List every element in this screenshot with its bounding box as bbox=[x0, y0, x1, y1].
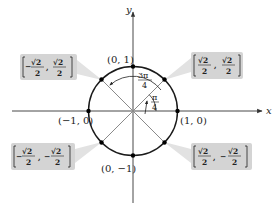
q4-x-den: 2 bbox=[202, 158, 207, 167]
angle-arc-3pi-over-4 bbox=[110, 76, 161, 90]
label-box-q1: √2 2 , √2 2 bbox=[191, 52, 243, 79]
label-0-neg1: (0, −1) bbox=[101, 163, 136, 174]
q3-x-num: √2 bbox=[22, 147, 32, 156]
label-box-q3: − √2 2 , − √2 2 bbox=[11, 143, 75, 170]
label-1-0: (1, 0) bbox=[180, 115, 207, 126]
angle-label-pi-over-4: π 4 bbox=[151, 93, 159, 112]
q1-y-den: 2 bbox=[226, 67, 231, 76]
q3-x-den: 2 bbox=[26, 158, 31, 167]
angle-pi4-denominator: 4 bbox=[152, 103, 157, 112]
q1-y-num: √2 bbox=[222, 56, 232, 65]
point-0-neg1 bbox=[131, 153, 135, 157]
y-axis-label: y bbox=[125, 4, 132, 15]
connector-q1 bbox=[164, 58, 191, 80]
angle-arc-pi-over-4-arrow bbox=[145, 101, 147, 114]
q1-comma: , bbox=[214, 61, 217, 70]
q4-y-num: √2 bbox=[228, 147, 238, 156]
q3-y-sign: − bbox=[44, 152, 50, 161]
q4-y-den: 2 bbox=[232, 158, 237, 167]
point-q3 bbox=[99, 140, 103, 144]
point-neg1-0 bbox=[86, 109, 90, 113]
label-box-q4: √2 2 , − √2 2 bbox=[191, 143, 252, 170]
point-q4 bbox=[162, 140, 166, 144]
label-box-q2: − √2 2 , √2 2 bbox=[20, 54, 77, 80]
connector-q4 bbox=[164, 142, 191, 163]
label-neg1-0: (−1, 0) bbox=[58, 115, 93, 126]
unit-circle-diagram: x y 3π 4 π 4 (0, 1) (1, 0) (−1, 0) (0, −… bbox=[0, 0, 276, 208]
point-1-0 bbox=[175, 109, 179, 113]
q2-comma: , bbox=[46, 63, 49, 72]
q2-y-den: 2 bbox=[57, 69, 62, 78]
q3-y-num: √2 bbox=[51, 147, 61, 156]
q2-y-num: √2 bbox=[53, 58, 63, 67]
q1-x-num: √2 bbox=[198, 56, 208, 65]
q2-x-num: √2 bbox=[31, 58, 41, 67]
q4-comma: , bbox=[213, 153, 216, 162]
q3-y-den: 2 bbox=[55, 158, 60, 167]
label-0-1: (0, 1) bbox=[107, 54, 134, 65]
q4-y-sign: − bbox=[220, 152, 226, 161]
angle-pi4-numerator: π bbox=[152, 93, 157, 102]
q4-x-num: √2 bbox=[198, 147, 208, 156]
point-q2 bbox=[99, 77, 103, 81]
q3-comma: , bbox=[38, 153, 41, 162]
angle-3pi4-denominator: 4 bbox=[142, 81, 147, 90]
q1-x-den: 2 bbox=[202, 67, 207, 76]
q2-x-den: 2 bbox=[35, 69, 40, 78]
connector-q3 bbox=[75, 142, 102, 163]
angle-3pi4-numerator: 3π bbox=[138, 71, 148, 80]
connector-q2 bbox=[77, 60, 102, 80]
x-axis-label: x bbox=[266, 105, 272, 116]
point-q1 bbox=[162, 77, 166, 81]
